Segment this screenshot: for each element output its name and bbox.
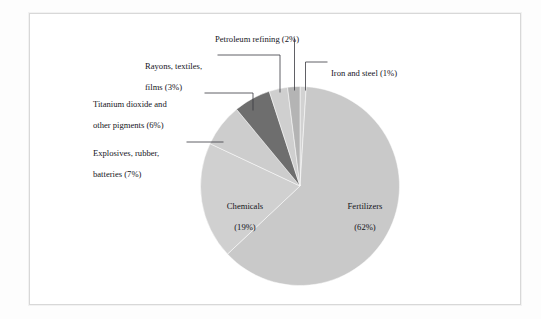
label-chemicals-line2: (19%) — [200, 222, 290, 233]
label-iron-and-steel: Iron and steel (1%) — [331, 57, 397, 78]
label-fertilizers-line1: Fertilizers — [320, 201, 410, 212]
leader-lines-layer — [0, 0, 541, 319]
figure-canvas: Petroleum refining (2%) Iron and steel (… — [0, 0, 541, 319]
pie-chart: Petroleum refining (2%) Iron and steel (… — [0, 0, 541, 319]
label-chemicals: Chemicals (19%) — [200, 190, 290, 243]
leader-line-titanium-dioxide — [205, 93, 253, 110]
label-fertilizers-line2: (62%) — [320, 222, 410, 233]
label-rayons-line1: Rayons, textiles, — [145, 61, 202, 72]
label-titanium-dioxide-line1: Titanium dioxide and — [93, 99, 167, 110]
label-explosives-line2: batteries (7%) — [93, 169, 159, 180]
label-titanium-dioxide: Titanium dioxide and other pigments (6%) — [93, 88, 167, 141]
label-explosives-line1: Explosives, rubber, — [93, 148, 159, 159]
label-petroleum-refining: Petroleum refining (2%) — [215, 23, 299, 44]
label-chemicals-line1: Chemicals — [200, 201, 290, 212]
leader-line-iron-and-steel — [306, 62, 328, 90]
label-explosives: Explosives, rubber, batteries (7%) — [93, 137, 159, 190]
label-fertilizers: Fertilizers (62%) — [320, 190, 410, 243]
label-titanium-dioxide-line2: other pigments (6%) — [93, 120, 167, 131]
leader-line-rayons — [218, 55, 280, 92]
label-iron-and-steel-text: Iron and steel (1%) — [331, 68, 397, 78]
label-petroleum-refining-text: Petroleum refining (2%) — [215, 34, 299, 44]
